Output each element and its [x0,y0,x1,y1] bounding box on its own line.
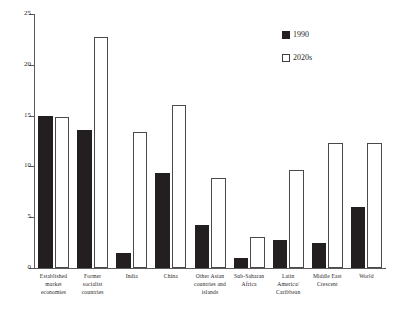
y-tick-label: 25 [24,8,31,19]
x-axis-line [34,268,386,269]
y-tick-25: 25 [34,14,35,15]
bar-2020s [55,117,70,268]
y-tick-10: 10 [34,166,35,167]
bar-1990 [273,240,288,268]
y-tick-label: 15 [24,110,31,121]
legend-item-1990: 1990 [282,30,372,39]
bar-chart: 0510152025 EstablishedmarketeconomiesFor… [0,0,404,322]
bar-1990 [351,207,366,268]
bar-group [38,14,69,268]
y-tick-5: 5 [34,217,35,218]
y-tick-0: 0 [34,268,35,269]
bar-2020s [250,237,265,268]
y-tick-label: 10 [24,160,31,171]
bar-group [195,14,226,268]
category-label-line: islands [186,288,233,296]
category-label-line: World [343,272,390,280]
bar-1990 [155,173,170,269]
category-label-line: socialist [69,280,116,288]
legend-item-2020s: 2020s [282,53,372,62]
bar-group [116,14,147,268]
category-label-line: Crescent [304,280,351,288]
bar-2020s [172,105,187,268]
bar-1990 [77,130,92,268]
bar-1990 [38,116,53,268]
bar-2020s [133,132,148,268]
y-tick-label: 20 [24,59,31,70]
category-label-line: Caribbean [265,288,312,296]
bar-group [234,14,265,268]
bar-1990 [312,243,327,268]
y-tick-20: 20 [34,65,35,66]
bar-2020s [367,143,382,268]
category-label: World [343,272,390,280]
category-label-line: countries [69,288,116,296]
bar-group [155,14,186,268]
legend-label-1990: 1990 [293,30,309,39]
filled-square-icon [282,31,290,39]
open-square-icon [282,54,290,62]
legend-label-2020s: 2020s [293,53,312,62]
bar-2020s [328,143,343,268]
bar-2020s [211,178,226,268]
bar-2020s [289,170,304,268]
bar-1990 [195,225,210,268]
chart-legend: 1990 2020s [282,30,372,76]
y-tick-15: 15 [34,116,35,117]
y-axis-line [34,14,35,269]
bar-group [77,14,108,268]
bar-2020s [94,37,109,268]
bar-1990 [116,253,131,268]
y-tick-label: 5 [28,211,32,222]
bar-1990 [234,258,249,268]
